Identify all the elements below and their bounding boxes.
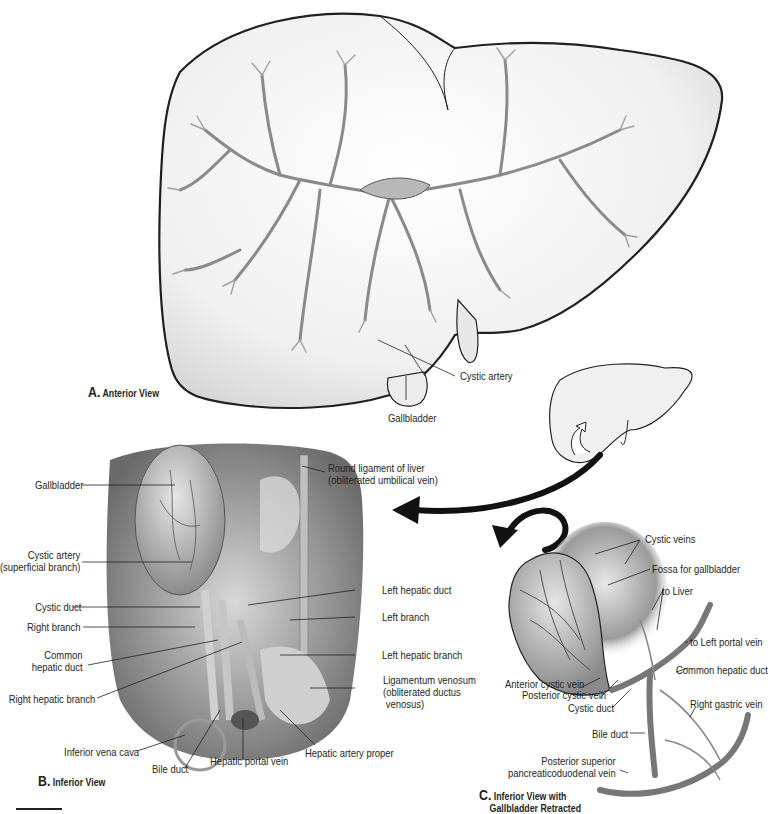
panel-b-inferior-view xyxy=(73,443,363,770)
label-right-gastric-vein: Right gastric vein xyxy=(690,698,762,710)
label-posterior-superior-pancreaticoduodenal-vein: Posterior superior pancreaticoduodenal v… xyxy=(508,755,616,779)
label-posterior-cystic-vein: Posterior cystic vein xyxy=(522,689,606,701)
label-round-ligament-line1: Round ligament of liver xyxy=(328,462,438,474)
label-gallbladder-a: Gallbladder xyxy=(388,412,436,424)
label-common-hepatic-duct-c: Common hepatic duct xyxy=(676,664,768,676)
label-common-hepatic-duct-b: Common hepatic duct xyxy=(32,649,83,673)
label-to-liver: to Liver xyxy=(662,585,693,597)
label-cystic-duct-c: Cystic duct xyxy=(568,702,614,714)
label-left-hepatic-branch: Left hepatic branch xyxy=(382,649,462,661)
label-pspd-line1: Posterior superior xyxy=(508,755,616,767)
label-cystic-artery-b-line2: (superficial branch) xyxy=(0,561,80,573)
label-hepatic-portal-vein: Hepatic portal vein xyxy=(210,755,288,767)
label-cystic-veins: Cystic veins xyxy=(645,533,695,545)
label-ligamentum-venosum-line2: (obliterated ductus xyxy=(383,686,476,698)
label-round-ligament-line2: (obliterated umbilical vein) xyxy=(328,474,438,486)
panel-a-liver xyxy=(159,14,722,408)
arrow-to-panel-b xyxy=(415,455,600,511)
label-hepatic-artery-proper: Hepatic artery proper xyxy=(305,747,394,759)
panel-c-title-line2: Gallbladder Retracted xyxy=(479,803,581,814)
label-fossa-gallbladder: Fossa for gallbladder xyxy=(652,563,740,575)
label-common-hepatic-duct-b-line2: hepatic duct xyxy=(32,661,83,673)
arrow-to-panel-c xyxy=(510,511,565,550)
label-right-branch: Right branch xyxy=(27,621,81,633)
panel-c-title: C. Inferior View with Gallbladder Retrac… xyxy=(479,787,581,814)
label-common-hepatic-duct-b-line1: Common xyxy=(32,649,83,661)
label-cystic-artery-b-line1: Cystic artery xyxy=(0,549,80,561)
panel-c-title-line1: Inferior View with xyxy=(494,791,567,802)
scale-bar xyxy=(16,808,62,810)
label-to-left-portal-vein: to Left portal vein xyxy=(690,636,763,648)
label-ligamentum-venosum: Ligamentum venosum (obliterated ductus v… xyxy=(383,674,476,710)
label-cystic-duct-b: Cystic duct xyxy=(35,601,81,613)
label-cystic-artery-b: Cystic artery (superficial branch) xyxy=(0,549,80,573)
label-gallbladder-b: Gallbladder xyxy=(35,479,83,491)
panel-b-title-text: Inferior View xyxy=(53,777,106,788)
label-pspd-line2: pancreaticoduodenal vein xyxy=(508,767,616,779)
panel-b-title: B. Inferior View xyxy=(38,773,105,789)
panel-b-letter: B. xyxy=(38,773,50,789)
label-inferior-vena-cava: Inferior vena cava xyxy=(64,746,139,758)
label-left-hepatic-duct: Left hepatic duct xyxy=(382,584,451,596)
panel-c-letter: C. xyxy=(479,787,491,803)
panel-a-title-text: Anterior View xyxy=(102,388,159,399)
panel-a-letter: A. xyxy=(88,384,100,400)
label-cystic-artery-a: Cystic artery xyxy=(460,370,513,382)
label-round-ligament: Round ligament of liver (obliterated umb… xyxy=(328,462,438,486)
label-left-branch: Left branch xyxy=(382,611,429,623)
label-bile-duct-b: Bile duct xyxy=(152,763,188,775)
label-ligamentum-venosum-line3: venosus) xyxy=(383,698,476,710)
label-bile-duct-c: Bile duct xyxy=(592,728,628,740)
label-right-hepatic-branch: Right hepatic branch xyxy=(8,693,95,705)
label-ligamentum-venosum-line1: Ligamentum venosum xyxy=(383,674,476,686)
orientation-liver-thumbnail xyxy=(550,364,692,463)
panel-a-title: A. Anterior View xyxy=(88,384,159,400)
